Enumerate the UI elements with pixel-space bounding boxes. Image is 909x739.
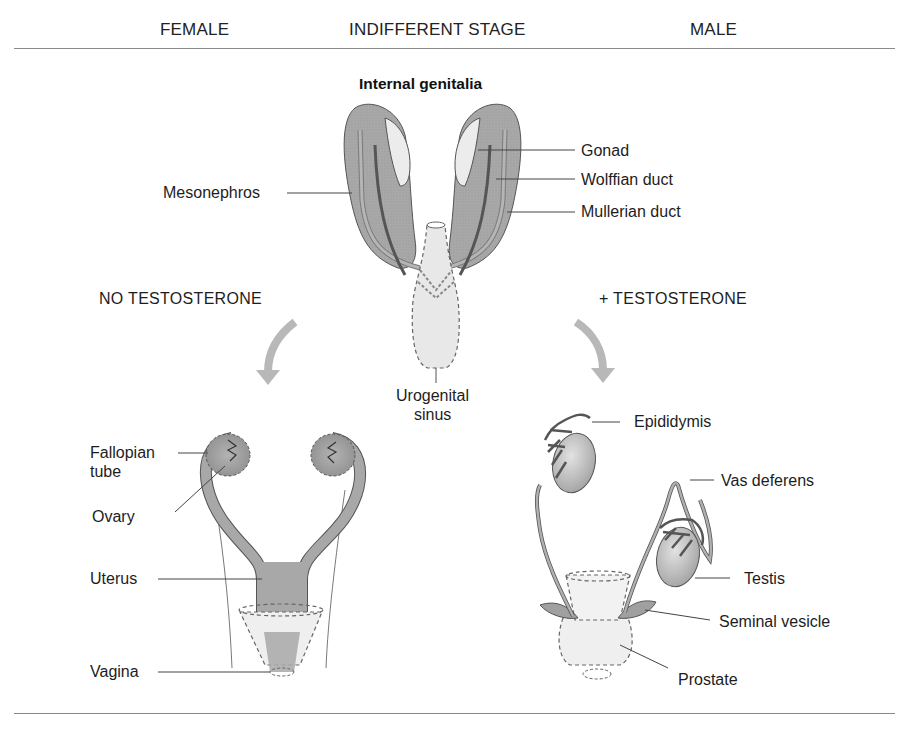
label-epididymis: Epididymis — [634, 412, 711, 432]
male-organs — [537, 415, 730, 679]
label-mullerian-duct: Mullerian duct — [581, 202, 681, 222]
label-testis: Testis — [744, 569, 785, 589]
arrow-male — [576, 322, 615, 383]
label-prostate: Prostate — [678, 670, 738, 690]
condition-plus-testosterone: + TESTOSTERONE — [599, 290, 747, 308]
label-uterus: Uterus — [90, 569, 137, 589]
arrow-female — [256, 322, 295, 385]
label-vas-deferens: Vas deferens — [721, 471, 814, 491]
label-urogenital-sinus-2: sinus — [414, 405, 451, 425]
label-fallopian-tube-1: Fallopian — [90, 443, 155, 463]
label-wolffian-duct: Wolffian duct — [581, 170, 673, 190]
bottom-divider — [14, 713, 895, 714]
female-organs — [158, 434, 360, 676]
label-urogenital-sinus-1: Urogenital — [396, 386, 469, 406]
label-vagina: Vagina — [90, 662, 139, 682]
condition-no-testosterone: NO TESTOSTERONE — [99, 290, 262, 308]
label-fallopian-tube-2: tube — [90, 462, 121, 482]
label-gonad: Gonad — [581, 141, 629, 161]
label-mesonephros: Mesonephros — [163, 183, 260, 203]
mesonephros-right — [445, 104, 521, 275]
label-seminal-vesicle: Seminal vesicle — [719, 612, 830, 632]
label-ovary: Ovary — [92, 507, 135, 527]
mesonephros-left — [344, 104, 420, 275]
